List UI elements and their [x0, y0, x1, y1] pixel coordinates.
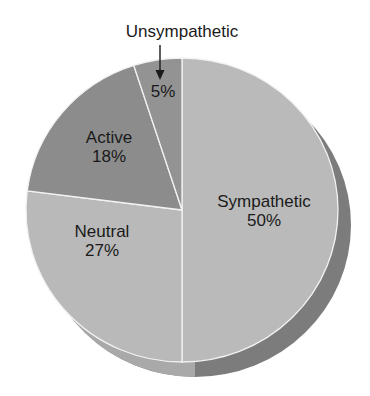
- pie-slice-neutral: [26, 191, 182, 362]
- slice-label-neutral: Neutral 27%: [75, 222, 130, 260]
- pie-chart: [0, 0, 370, 396]
- slice-label-sympathetic: Sympathetic 50%: [217, 192, 311, 230]
- slice-label-unsympathetic: 5%: [151, 82, 176, 101]
- slice-label-active: Active 18%: [86, 128, 132, 166]
- annotation-label-unsympathetic: Unsympathetic: [126, 22, 238, 41]
